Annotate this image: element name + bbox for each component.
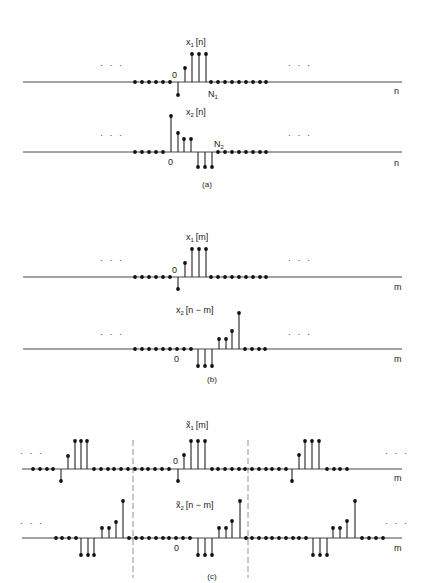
sample-dot <box>147 536 151 540</box>
sample-dot <box>133 150 137 154</box>
sample-dot <box>121 499 125 503</box>
sample-dot <box>161 80 165 84</box>
zero-label: 0 <box>172 265 177 275</box>
sample-dot <box>209 275 213 279</box>
signal-row-x2nm-periodic: x̃2[n − m]m0· · ·· · · <box>20 499 409 557</box>
sample-dot <box>297 536 301 540</box>
sample-dot <box>210 165 214 169</box>
sample-dot <box>147 347 151 351</box>
sample-dot <box>258 275 262 279</box>
sample-dot <box>106 467 110 471</box>
sample-dot <box>147 150 151 154</box>
sample-dot <box>204 52 208 56</box>
signal-row-x2nm: x2[n − m]m0· · ·· · · <box>23 305 402 368</box>
sample-dot <box>79 439 83 443</box>
sample-dot <box>277 536 281 540</box>
sample-dot <box>353 499 357 503</box>
sample-dot <box>154 80 158 84</box>
caption-b: (b) <box>207 375 217 384</box>
sample-dot <box>217 337 221 341</box>
sample-dot <box>230 329 234 333</box>
signal-title: x2[n − m] <box>176 305 214 316</box>
sample-dot <box>264 275 268 279</box>
ellipsis-left: · · · <box>100 130 124 140</box>
sample-dot <box>160 467 164 471</box>
sample-dot <box>100 526 104 530</box>
sample-dot <box>311 553 315 557</box>
zero-label: 0 <box>168 157 173 167</box>
sample-dot <box>244 80 248 84</box>
sample-dot <box>238 499 242 503</box>
sample-dot <box>190 52 194 56</box>
sample-dot <box>325 467 329 471</box>
sample-dot <box>243 347 247 351</box>
sample-dot <box>374 536 378 540</box>
sample-dot <box>86 553 90 557</box>
sample-dot <box>216 80 220 84</box>
sample-dot <box>175 347 179 351</box>
sample-dot <box>257 347 261 351</box>
sample-dot <box>270 467 274 471</box>
sample-dot <box>85 439 89 443</box>
sample-dot <box>264 536 268 540</box>
signal-rows: x1[n]n0N1· · ·· · ·x2[n]n0N2· · ·· · ·x1… <box>20 37 409 557</box>
sample-dot <box>51 467 55 471</box>
sample-dot <box>317 439 321 443</box>
sample-dot <box>203 553 207 557</box>
sample-dot <box>277 467 281 471</box>
sample-dot <box>332 467 336 471</box>
sample-dot <box>60 536 64 540</box>
sample-dot <box>244 150 248 154</box>
sample-dot <box>107 526 111 530</box>
sample-dot <box>360 536 364 540</box>
sample-dot <box>140 80 144 84</box>
sample-dot <box>250 536 254 540</box>
sample-dot <box>250 467 254 471</box>
ellipsis-left: · · · <box>20 518 44 528</box>
zero-label: 0 <box>172 70 177 80</box>
sample-dot <box>224 526 228 530</box>
caption-a: (a) <box>202 180 212 189</box>
sample-dot <box>209 80 213 84</box>
sample-dot <box>230 80 234 84</box>
sample-dot <box>237 311 241 315</box>
sample-dot <box>154 150 158 154</box>
sample-dot <box>114 520 118 524</box>
sample-dot <box>264 150 268 154</box>
sample-dot <box>181 536 185 540</box>
sample-dot <box>182 137 186 141</box>
sample-dot <box>325 553 329 557</box>
sample-dot <box>210 467 214 471</box>
ellipsis-left: · · · <box>100 60 124 70</box>
sample-dot <box>258 80 262 84</box>
sample-dot <box>167 467 171 471</box>
sample-dot <box>223 80 227 84</box>
sample-dot <box>147 275 151 279</box>
sample-dot <box>204 247 208 251</box>
sample-dot <box>54 536 58 540</box>
sample-dot <box>338 526 342 530</box>
sample-dot <box>210 364 214 368</box>
axis-variable-label: m <box>394 543 402 553</box>
sample-dot <box>189 439 193 443</box>
axis-variable-label: n <box>394 158 399 168</box>
sample-dot <box>31 467 35 471</box>
zero-label: 0 <box>173 456 178 466</box>
sample-dot <box>270 536 274 540</box>
sample-dot <box>197 52 201 56</box>
sample-dot <box>203 439 207 443</box>
sample-dot <box>264 80 268 84</box>
sample-dot <box>196 553 200 557</box>
ellipsis-right: · · · <box>288 60 312 70</box>
sample-dot <box>257 536 261 540</box>
ellipsis-right: · · · <box>385 448 409 458</box>
sample-dot <box>38 467 42 471</box>
sample-dot <box>161 275 165 279</box>
sample-dot <box>196 165 200 169</box>
sample-dot <box>244 536 248 540</box>
sample-dot <box>257 467 261 471</box>
zero-label: 0 <box>174 354 179 364</box>
sample-dot <box>161 347 165 351</box>
sample-dot <box>230 519 234 523</box>
sample-dot <box>251 150 255 154</box>
